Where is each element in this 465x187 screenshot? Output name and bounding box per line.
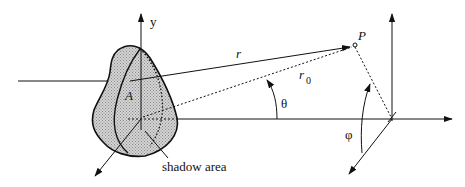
r0-label: r bbox=[299, 67, 305, 82]
shadow-area-label: shadow area bbox=[162, 159, 227, 174]
scattering-body bbox=[92, 46, 177, 157]
y-axis-label: y bbox=[150, 14, 157, 29]
diagram-canvas: y shadow area A r r 0 P θ φ bbox=[0, 0, 465, 187]
r0-subscript: 0 bbox=[306, 75, 311, 86]
point-p-label: P bbox=[357, 28, 366, 43]
theta-label: θ bbox=[281, 96, 287, 111]
r-label: r bbox=[236, 46, 242, 61]
point-p bbox=[353, 43, 357, 47]
projection-line bbox=[355, 47, 391, 117]
z-axis-right bbox=[349, 119, 392, 174]
phi-label: φ bbox=[345, 127, 353, 142]
vector-r0 bbox=[143, 47, 352, 117]
point-a-label: A bbox=[124, 88, 133, 103]
theta-arc bbox=[267, 80, 277, 119]
